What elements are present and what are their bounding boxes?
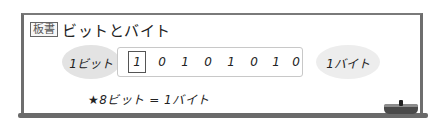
digit: 0 — [202, 55, 214, 69]
digit: 1 — [225, 55, 237, 69]
byte-digit-box: 1 0 1 0 1 0 1 0 — [117, 47, 303, 77]
board-title-row: 板書 ビットとバイト — [30, 19, 171, 40]
board-title: ビットとバイト — [62, 19, 171, 40]
digit: 1 — [270, 55, 282, 69]
eraser-icon — [384, 104, 418, 114]
digit: 0 — [290, 55, 302, 69]
bit-label: 1ビット — [69, 54, 113, 71]
board-tag: 板書 — [30, 22, 58, 37]
digit-highlighted: 1 — [128, 51, 146, 73]
byte-label: 1バイト — [326, 54, 370, 71]
bit-bubble: 1ビット — [62, 45, 120, 79]
digit: 1 — [179, 55, 191, 69]
digit: 0 — [156, 55, 168, 69]
blackboard-ledge — [18, 113, 428, 118]
summary-note: ★8ビット = 1バイト — [88, 90, 210, 107]
byte-bubble: 1バイト — [316, 45, 380, 79]
digit: 0 — [248, 55, 260, 69]
